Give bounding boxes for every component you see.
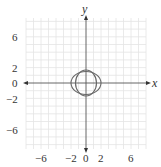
x-axis-left-arrow-icon <box>23 81 28 85</box>
x-tick-m2: −2 <box>65 152 77 164</box>
x-axis-label: x <box>151 76 158 90</box>
x-tick-0: 0 <box>83 152 89 164</box>
coordinate-plane: x y −6 −2 0 2 6 6 2 0 −2 −6 <box>0 0 161 167</box>
y-axis-label: y <box>81 2 88 16</box>
x-tick-6: 6 <box>128 152 134 164</box>
y-tick-0: 0 <box>12 77 18 89</box>
y-tick-2: 2 <box>12 62 18 74</box>
x-tick-m6: −6 <box>35 152 47 164</box>
y-tick-6: 6 <box>12 31 18 43</box>
y-tick-m6: −6 <box>6 124 18 136</box>
axes <box>23 15 151 153</box>
x-axis-right-arrow-icon <box>146 81 151 85</box>
x-tick-2: 2 <box>98 152 104 164</box>
y-tick-m2: −2 <box>6 93 18 105</box>
